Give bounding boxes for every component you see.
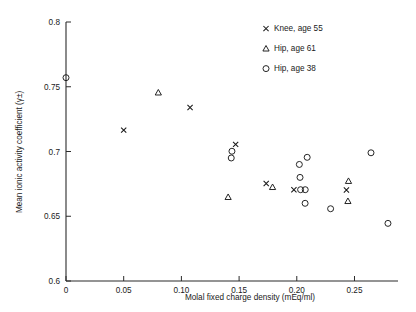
- x-tick-label: 0.05: [116, 286, 132, 295]
- legend: Knee, age 55Hip, age 61Hip, age 38: [263, 24, 323, 73]
- data-point-cross: [233, 142, 238, 147]
- data-point-circle: [263, 66, 269, 72]
- x-tick-label: 0.25: [347, 286, 363, 295]
- data-point-triangle: [269, 184, 275, 190]
- data-point-circle: [304, 154, 310, 160]
- data-point-triangle: [263, 46, 269, 52]
- data-point-circle: [385, 220, 391, 226]
- series-hip-age-38: [63, 75, 391, 227]
- data-point-triangle: [225, 194, 231, 200]
- data-point-circle: [297, 174, 303, 180]
- data-point-cross: [263, 26, 268, 31]
- data-point-circle: [296, 161, 302, 167]
- data-point-cross: [264, 181, 269, 186]
- data-point-cross: [344, 187, 349, 192]
- data-point-circle: [302, 200, 308, 206]
- y-tick-label: 0.8: [49, 18, 61, 27]
- data-point-circle: [228, 155, 234, 161]
- data-point-circle: [328, 206, 334, 212]
- data-point-cross: [121, 128, 126, 133]
- data-point-circle: [368, 150, 374, 156]
- data-point-cross: [291, 187, 296, 192]
- data-point-triangle: [345, 178, 351, 184]
- series-knee-age-55: [121, 105, 349, 193]
- y-tick-label: 0.75: [44, 83, 60, 92]
- legend-item-label: Hip, age 61: [274, 44, 316, 53]
- y-tick-label: 0.7: [49, 148, 61, 157]
- series-hip-age-61: [155, 89, 351, 203]
- data-point-circle: [229, 148, 235, 154]
- x-tick-label: 0: [64, 286, 69, 295]
- legend-item-label: Hip, age 38: [274, 64, 316, 73]
- y-tick-label: 0.65: [44, 212, 60, 221]
- legend-item-label: Knee, age 55: [274, 24, 323, 33]
- plot-canvas: 0.60.650.70.750.8 00.050.100.150.200.25 …: [0, 0, 416, 312]
- y-axis-title: Mean ionic activity coefficient (γ±): [15, 91, 24, 213]
- scatter-plot-figure: 0.60.650.70.750.8 00.050.100.150.200.25 …: [0, 0, 416, 312]
- y-axis-ticks: 0.60.650.70.750.8: [44, 18, 71, 286]
- data-point-circle: [302, 187, 308, 193]
- data-point-cross: [187, 105, 192, 110]
- x-axis-title: Molal fixed charge density (mEq/ml): [185, 293, 315, 302]
- data-point-triangle: [155, 89, 161, 95]
- data-point-triangle: [345, 198, 351, 204]
- y-tick-label: 0.6: [49, 277, 61, 286]
